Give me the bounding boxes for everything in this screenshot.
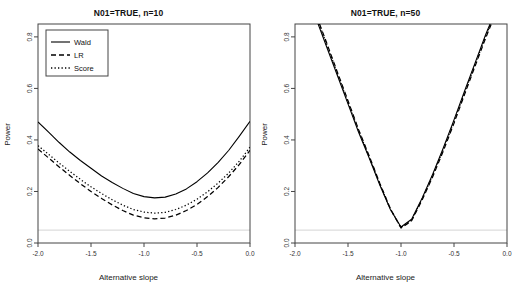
svg-text:0.0: 0.0 [245, 250, 254, 257]
svg-text:-1.0: -1.0 [395, 250, 407, 257]
svg-text:-1.5: -1.5 [342, 250, 354, 257]
svg-text:0.4: 0.4 [283, 135, 290, 144]
svg-text:0.6: 0.6 [283, 84, 290, 93]
svg-text:0.2: 0.2 [283, 187, 290, 196]
svg-text:-1.0: -1.0 [138, 250, 150, 257]
panel-right: N01=TRUE, n=50 Power Alternative slope -… [257, 0, 514, 286]
svg-text:0.4: 0.4 [26, 135, 33, 144]
svg-text:-1.5: -1.5 [85, 250, 97, 257]
svg-text:Wald: Wald [74, 38, 91, 47]
svg-text:0.8: 0.8 [283, 32, 290, 41]
svg-text:Score: Score [74, 64, 94, 73]
svg-text:0.0: 0.0 [502, 250, 511, 257]
svg-text:-2.0: -2.0 [32, 250, 44, 257]
panel-left-plot: -2.0-1.5-1.0-0.50.00.00.20.40.60.8WaldLR… [0, 0, 257, 286]
svg-text:-2.0: -2.0 [289, 250, 301, 257]
panel-left: N01=TRUE, n=10 Power Alternative slope -… [0, 0, 257, 286]
svg-text:0.0: 0.0 [283, 238, 290, 247]
svg-text:0.0: 0.0 [26, 238, 33, 247]
svg-text:0.6: 0.6 [26, 84, 33, 93]
panel-right-plot: -2.0-1.5-1.0-0.50.00.00.20.40.60.8 [257, 0, 514, 286]
svg-text:LR: LR [74, 51, 84, 60]
svg-text:-0.5: -0.5 [191, 250, 203, 257]
figure-root: N01=TRUE, n=10 Power Alternative slope -… [0, 0, 514, 286]
svg-text:0.2: 0.2 [26, 187, 33, 196]
svg-text:-0.5: -0.5 [448, 250, 460, 257]
svg-text:0.8: 0.8 [26, 32, 33, 41]
